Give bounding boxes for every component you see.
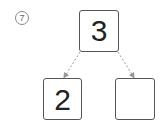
arrow-left: [65, 52, 80, 76]
top-number-box: 3: [79, 10, 119, 52]
arrow-right: [118, 52, 133, 76]
bottom-right-answer-box[interactable]: [115, 78, 155, 120]
bottom-left-number-box: 2: [43, 78, 82, 120]
